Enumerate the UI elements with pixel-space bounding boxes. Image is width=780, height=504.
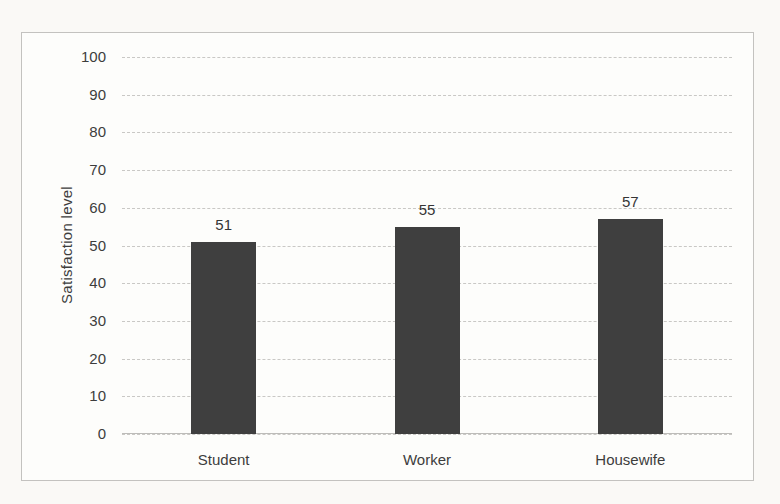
y-tick-label: 100 (22, 47, 106, 67)
y-tick-label: 90 (22, 85, 106, 105)
y-tick-label: 70 (22, 160, 106, 180)
gridline (122, 57, 732, 58)
bar-value-label: 57 (590, 193, 670, 210)
y-tick-label: 60 (22, 198, 106, 218)
category-label-worker: Worker (362, 451, 492, 468)
plot-area (122, 57, 732, 434)
y-tick-label: 0 (22, 424, 106, 444)
chart-frame: Satisfaction level 010203040506070809010… (21, 32, 754, 481)
bar-value-label: 51 (184, 216, 264, 233)
gridline (122, 95, 732, 96)
y-tick-label: 20 (22, 349, 106, 369)
category-label-housewife: Housewife (565, 451, 695, 468)
y-tick-label: 10 (22, 386, 106, 406)
y-tick-label: 30 (22, 311, 106, 331)
y-tick-label: 50 (22, 236, 106, 256)
gridline (122, 132, 732, 133)
category-label-student: Student (159, 451, 289, 468)
bar-student (191, 242, 256, 434)
bar-value-label: 55 (387, 201, 467, 218)
gridline (122, 434, 732, 435)
y-tick-label: 80 (22, 122, 106, 142)
y-tick-label: 40 (22, 273, 106, 293)
gridline (122, 170, 732, 171)
bar-housewife (598, 219, 663, 434)
bar-worker (395, 227, 460, 434)
